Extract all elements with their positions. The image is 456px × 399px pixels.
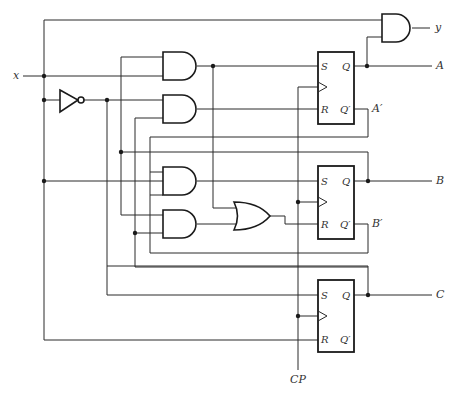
wires bbox=[23, 20, 432, 370]
svg-text:Q: Q bbox=[342, 290, 350, 301]
output-a-prime-label: A′ bbox=[371, 102, 383, 115]
or-gate bbox=[234, 202, 270, 230]
flipflop-a: S R Q Q′ bbox=[318, 52, 354, 124]
svg-text:S: S bbox=[321, 176, 328, 187]
svg-text:Q′: Q′ bbox=[340, 104, 351, 115]
output-y-label: y bbox=[434, 21, 442, 34]
flipflop-b: S R Q Q′ bbox=[318, 166, 354, 239]
and-gate-1 bbox=[163, 52, 196, 80]
svg-text:R: R bbox=[320, 104, 329, 115]
logic-circuit-diagram: S R Q Q′ S R Q Q′ S R Q Q′ x y A A′ B B′… bbox=[0, 0, 456, 399]
input-x-label: x bbox=[13, 69, 20, 82]
svg-text:R: R bbox=[320, 334, 329, 345]
and-gate-y bbox=[382, 14, 410, 42]
output-b-prime-label: B′ bbox=[371, 217, 383, 230]
svg-text:Q: Q bbox=[342, 176, 350, 187]
output-a-label: A bbox=[435, 59, 444, 72]
flipflop-c: S R Q Q′ bbox=[318, 280, 354, 352]
svg-text:S: S bbox=[321, 61, 328, 72]
svg-text:Q: Q bbox=[342, 61, 350, 72]
and-gate-3 bbox=[163, 167, 196, 195]
and-gate-4 bbox=[163, 210, 196, 238]
output-c-label: C bbox=[436, 288, 445, 301]
svg-text:Q′: Q′ bbox=[340, 219, 351, 230]
clock-cp-label: CP bbox=[290, 373, 306, 386]
svg-text:Q′: Q′ bbox=[340, 334, 351, 345]
svg-text:S: S bbox=[321, 290, 328, 301]
svg-text:R: R bbox=[320, 219, 329, 230]
and-gate-2 bbox=[163, 95, 196, 123]
not-gate bbox=[60, 90, 84, 112]
output-b-label: B bbox=[435, 174, 444, 187]
